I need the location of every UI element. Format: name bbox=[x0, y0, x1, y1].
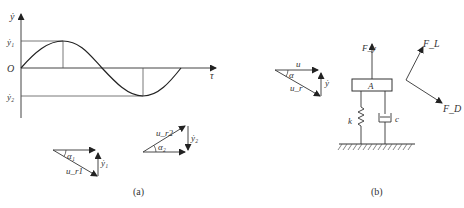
u-label: u bbox=[296, 59, 301, 69]
caption-b: (b) bbox=[371, 186, 383, 198]
spring-mass-damper bbox=[338, 44, 415, 150]
y-axis-label: ẏ bbox=[9, 11, 15, 22]
ydot2-label: ẏ₂ bbox=[190, 133, 198, 143]
max-label: ẏ₁ bbox=[6, 37, 14, 47]
velocity-plot bbox=[21, 14, 216, 118]
origin-label: O bbox=[7, 63, 14, 74]
damper bbox=[379, 113, 391, 122]
ydot1-label: ẏ₁ bbox=[100, 158, 108, 168]
diagram-canvas: ẏ τ O ẏ₁ ẏ₂ α₁ u_r1 ẏ₁ α₂ u_r2 ẏ₂ (a) u … bbox=[0, 0, 464, 208]
ydot-label: ẏ bbox=[324, 78, 330, 88]
x-axis-label: τ bbox=[210, 70, 214, 81]
drag-label: F_D bbox=[442, 103, 462, 114]
lift-drag-forces bbox=[406, 47, 442, 103]
ur1-label: u_r1 bbox=[66, 166, 83, 176]
ur-label: u_r bbox=[290, 83, 303, 93]
alpha1-label: α₁ bbox=[67, 151, 75, 161]
caption-a: (a) bbox=[133, 186, 144, 198]
alpha2-label: α₂ bbox=[158, 142, 166, 152]
lift-arrow bbox=[406, 47, 423, 80]
spring bbox=[358, 91, 364, 144]
alpha-label: α bbox=[289, 70, 294, 80]
spring-label: k bbox=[348, 116, 353, 126]
damper-label: c bbox=[395, 114, 399, 124]
mass-label: A bbox=[367, 81, 374, 91]
lift-label: F_L bbox=[422, 38, 440, 49]
drag-arrow bbox=[406, 80, 442, 103]
force-y-label: F_y bbox=[361, 43, 376, 53]
min-label: ẏ₂ bbox=[6, 92, 14, 102]
ur2-label: u_r2 bbox=[156, 128, 174, 138]
